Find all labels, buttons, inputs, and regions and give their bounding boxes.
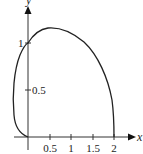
y-tick-label: 0.5 — [32, 84, 46, 96]
x-tick-label: 2 — [111, 142, 117, 154]
x-axis-label: x — [136, 130, 143, 144]
x-axis-arrow-icon — [128, 134, 136, 141]
x-tick-label: 1.5 — [86, 142, 100, 154]
y-ticks: 0.5 1 — [18, 37, 46, 96]
x-tick-label: 0.5 — [43, 142, 57, 154]
y-axis-label: y — [25, 0, 32, 7]
chart: x y 0.5 1 1.5 2 0.5 1 — [0, 0, 143, 154]
y-axis-arrow-icon — [25, 6, 32, 14]
x-tick-label: 1 — [68, 142, 74, 154]
y-tick-label: 1 — [18, 37, 24, 49]
